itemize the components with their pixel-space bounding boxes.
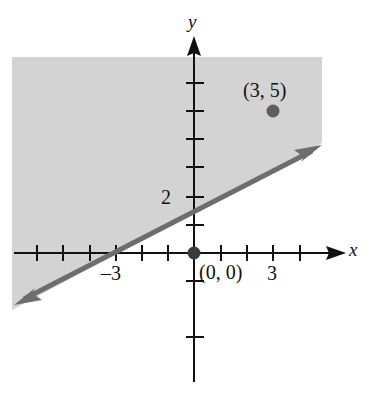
y-axis-label: y — [188, 12, 196, 31]
point-0-0-dot — [188, 247, 201, 260]
point-3-5-dot — [267, 105, 280, 118]
graph-figure: y x –3 2 3 (0, 0) (3, 5) — [0, 0, 375, 396]
x-axis-label: x — [349, 240, 357, 259]
x-tick-label-3: 3 — [267, 263, 277, 283]
x-tick-label-neg3: –3 — [101, 263, 121, 283]
coordinate-plane-svg — [0, 0, 375, 396]
origin-point-label: (0, 0) — [199, 262, 242, 282]
y-tick-label-2: 2 — [161, 187, 171, 207]
test-point-label: (3, 5) — [243, 80, 286, 100]
